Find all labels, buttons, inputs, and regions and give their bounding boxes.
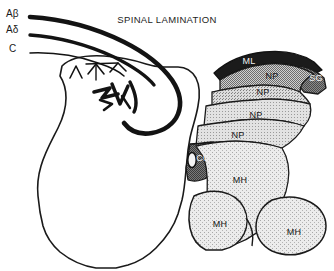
- region-label-np-1: NP: [266, 71, 279, 81]
- fiber-label-c: C: [9, 43, 16, 54]
- arbor-branch-4: [86, 63, 118, 64]
- region-label-mh-3: MH: [287, 227, 301, 237]
- central-canal-lumen: [188, 153, 196, 168]
- spinal-lamination-figure: SPINAL LAMINATION Aβ Aδ C ML SG NP NP NP…: [0, 0, 334, 271]
- region-label-ml: ML: [243, 56, 256, 66]
- page-title: SPINAL LAMINATION: [0, 14, 334, 25]
- region-label-np-4: NP: [232, 130, 245, 140]
- lamina-motor-horn-lateral: [256, 197, 326, 254]
- spinal-cord-cross-section-drawing: [0, 0, 334, 271]
- region-label-mh-1: MH: [233, 175, 247, 185]
- fiber-label-a-delta: Aδ: [6, 24, 18, 35]
- region-label-np-3: NP: [250, 110, 263, 120]
- region-label-np-2: NP: [257, 87, 270, 97]
- region-label-sg: SG: [309, 73, 322, 83]
- region-label-mh-2: MH: [213, 219, 227, 229]
- region-label-cc: CC: [196, 153, 209, 163]
- fiber-label-a-beta: Aβ: [6, 8, 18, 19]
